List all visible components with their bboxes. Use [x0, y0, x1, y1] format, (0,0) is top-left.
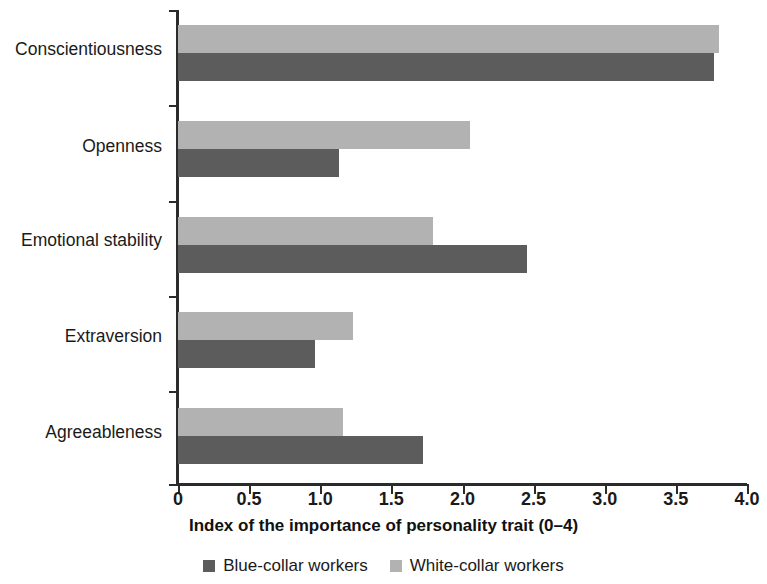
- bar-blue-collar-conscientiousness: [178, 53, 714, 81]
- bar-chart: Conscientiousness Openness Emotional sta…: [0, 0, 767, 584]
- bar-blue-collar-agreeableness: [178, 436, 423, 464]
- x-axis-title: Index of the importance of personality t…: [0, 516, 767, 536]
- bar-white-collar-extraversion: [178, 312, 353, 340]
- y-axis-tick-3: [169, 296, 178, 298]
- x-axis-tick-label-6: 3.0: [592, 489, 617, 510]
- bar-blue-collar-extraversion: [178, 340, 315, 368]
- bar-blue-collar-openness: [178, 149, 339, 177]
- bar-white-collar-conscientiousness: [178, 25, 719, 53]
- legend-label-blue-collar: Blue-collar workers: [223, 556, 368, 576]
- y-axis-labels: Conscientiousness Openness Emotional sta…: [0, 0, 170, 484]
- y-axis-label-1: Openness: [82, 136, 162, 157]
- y-axis-label-0: Conscientiousness: [15, 39, 162, 60]
- x-axis-tick-label-2: 1.0: [308, 489, 333, 510]
- legend-swatch-blue-collar-icon: [203, 560, 215, 572]
- y-axis-label-2: Emotional stability: [21, 230, 162, 251]
- x-axis-tick-label-1: 0.5: [237, 489, 262, 510]
- bar-white-collar-openness: [178, 121, 470, 149]
- y-axis-tick-4: [169, 391, 178, 393]
- bar-white-collar-emotional-stability: [178, 217, 433, 245]
- x-axis-tick-label-8: 4.0: [734, 489, 759, 510]
- x-axis-tick-label-4: 2.0: [450, 489, 475, 510]
- y-axis-label-4: Agreeableness: [45, 422, 162, 443]
- y-axis-tick-bottom: [169, 484, 178, 486]
- legend-swatch-white-collar-icon: [390, 560, 402, 572]
- y-axis-label-3: Extraversion: [65, 326, 162, 347]
- x-axis-tick-label-0: 0: [173, 489, 183, 510]
- x-axis-tick-labels: 00.51.01.52.02.53.03.54.0: [0, 489, 767, 515]
- legend-item-white-collar: White-collar workers: [390, 556, 564, 576]
- bar-white-collar-agreeableness: [178, 408, 343, 436]
- legend-item-blue-collar: Blue-collar workers: [203, 556, 368, 576]
- x-axis-tick-label-5: 2.5: [521, 489, 546, 510]
- y-axis-tick-top: [169, 10, 178, 12]
- plot-area: [178, 10, 747, 484]
- y-axis-tick-2: [169, 201, 178, 203]
- x-axis-tick-label-3: 1.5: [379, 489, 404, 510]
- legend-label-white-collar: White-collar workers: [410, 556, 564, 576]
- x-axis-tick-label-7: 3.5: [663, 489, 688, 510]
- y-axis-tick-1: [169, 105, 178, 107]
- bar-blue-collar-emotional-stability: [178, 245, 527, 273]
- chart-legend: Blue-collar workers White-collar workers: [0, 556, 767, 576]
